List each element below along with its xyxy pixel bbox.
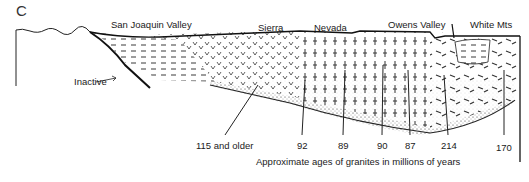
age-label: 90	[377, 140, 388, 151]
region-label-san-joaquin: San Joaquin Valley	[111, 19, 192, 30]
age-label: 214	[441, 140, 457, 151]
inactive-fault-label: Inactive	[74, 76, 107, 87]
age-label: 170	[496, 142, 512, 153]
caption: Approximate ages of granites in millions…	[256, 156, 460, 167]
age-label: 89	[338, 140, 349, 151]
region-label-nevada: Nevada	[314, 22, 347, 33]
region-label-white-mts: White Mts	[470, 19, 512, 30]
nevada-granite-zone	[300, 32, 430, 128]
age-label: 87	[405, 140, 416, 151]
region-label-sierra: Sierra	[258, 22, 283, 33]
age-label: 92	[297, 140, 308, 151]
region-label-owens-valley: Owens Valley	[388, 19, 445, 30]
age-label: 115 and older	[196, 140, 253, 151]
